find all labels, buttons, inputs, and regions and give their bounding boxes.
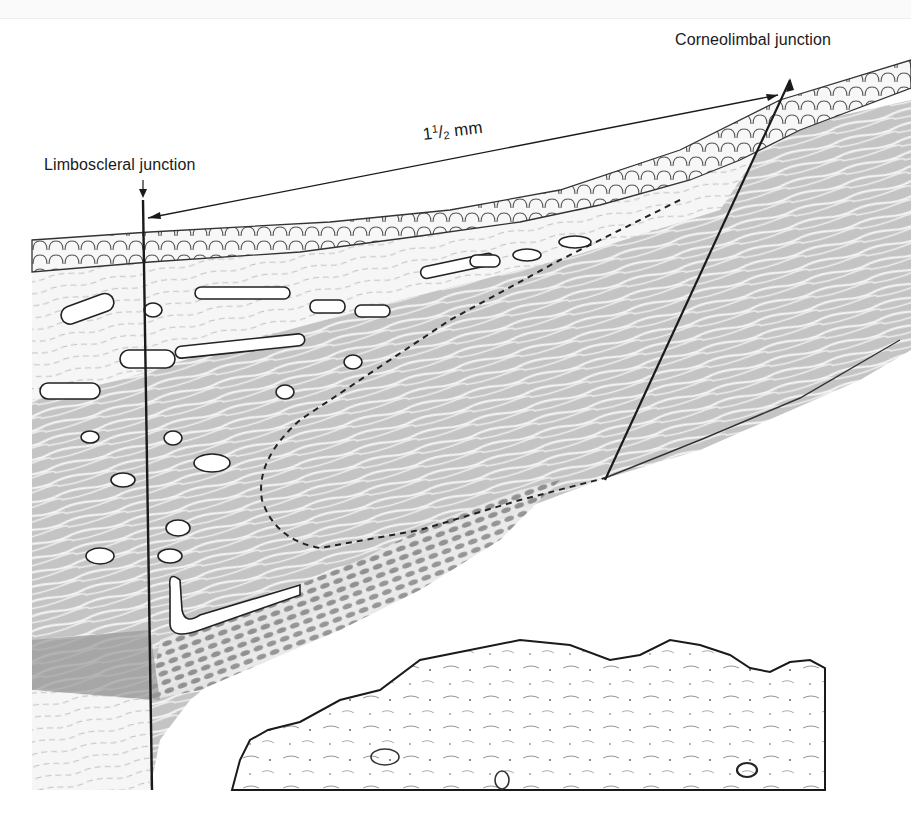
- scale-arrow-left-icon: [148, 212, 161, 219]
- scale-numerator: 1: [431, 122, 439, 135]
- scale-unit: mm: [453, 118, 484, 140]
- limboscleral-arrow-icon: [139, 189, 147, 198]
- ciliary-body: [232, 640, 825, 790]
- corneolimbal-junction-label: Corneolimbal junction: [675, 31, 831, 49]
- lower-pale-region: [32, 690, 150, 790]
- illustration-canvas: Corneolimbal junction Limboscleral junct…: [0, 0, 911, 813]
- deep-stroma-dark: [32, 630, 160, 700]
- limboscleral-junction-label: Limboscleral junction: [44, 156, 196, 174]
- scale-arrow-right-icon: [766, 94, 778, 101]
- scale-denominator: 2: [443, 129, 451, 142]
